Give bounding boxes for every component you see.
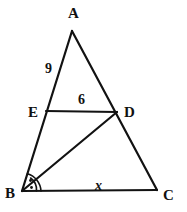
measure-label-ED: 6 bbox=[78, 92, 85, 107]
vertex-label-C: C bbox=[163, 187, 174, 203]
vertex-label-B: B bbox=[5, 185, 15, 201]
geometry-diagram-canvas: A B C D E 9 6 x bbox=[0, 0, 187, 212]
measure-label-BC: x bbox=[94, 178, 102, 193]
vertex-label-A: A bbox=[68, 5, 79, 21]
segment-ED bbox=[46, 111, 117, 112]
vertex-label-D: D bbox=[124, 104, 135, 120]
measure-label-AE: 9 bbox=[45, 61, 52, 76]
geometry-figure: A B C D E 9 6 x bbox=[0, 0, 187, 212]
vertex-label-E: E bbox=[28, 104, 38, 120]
angle-dot-lower bbox=[30, 186, 33, 189]
angle-dot-upper bbox=[29, 179, 32, 182]
side-BC bbox=[22, 190, 157, 191]
